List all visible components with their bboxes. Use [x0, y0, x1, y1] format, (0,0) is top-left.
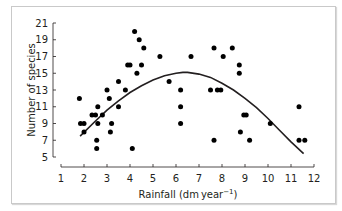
data-point: [82, 129, 87, 134]
data-point: [82, 121, 87, 126]
data-point: [218, 88, 223, 93]
y-tick-label: 15: [35, 68, 48, 79]
data-point: [178, 121, 183, 126]
x-tick-label: 4: [127, 173, 133, 184]
data-point: [123, 88, 128, 93]
x-tick-label: 11: [285, 173, 298, 184]
data-point: [100, 113, 105, 118]
data-point: [139, 62, 144, 67]
data-point: [212, 138, 217, 143]
fit-curve: [80, 72, 304, 153]
data-point: [130, 146, 135, 151]
x-tick-label: 1: [58, 173, 64, 184]
data-point: [77, 96, 82, 101]
data-point: [95, 121, 100, 126]
data-point: [178, 88, 183, 93]
data-point: [247, 138, 252, 143]
y-tick-label: 13: [35, 85, 48, 96]
axes: 579111315171921123456789101112: [35, 18, 320, 185]
data-point: [208, 88, 213, 93]
scatter-chart: 579111315171921123456789101112 Rainfall …: [0, 0, 342, 211]
data-point: [268, 121, 273, 126]
y-tick-label: 9: [42, 118, 48, 129]
data-point: [94, 138, 99, 143]
y-tick-label: 17: [35, 51, 48, 62]
y-tick-label: 11: [35, 101, 48, 112]
x-tick-label: 10: [262, 173, 275, 184]
data-point: [141, 46, 146, 51]
data-point: [116, 104, 121, 109]
data-point: [244, 113, 249, 118]
data-point: [107, 96, 112, 101]
data-point: [128, 62, 133, 67]
x-tick-label: 3: [104, 173, 110, 184]
data-point: [116, 79, 121, 84]
x-axis-title: Rainfall (dm year−1): [139, 188, 238, 200]
y-tick-label: 7: [42, 135, 48, 146]
data-point: [238, 129, 243, 134]
x-tick-label: 6: [173, 173, 179, 184]
data-point: [94, 146, 99, 151]
x-tick-label: 5: [150, 173, 156, 184]
x-tick-label: 12: [308, 173, 321, 184]
data-points: [77, 29, 307, 151]
data-point: [132, 29, 137, 34]
data-point: [109, 121, 114, 126]
data-point: [157, 54, 162, 59]
data-point: [230, 46, 235, 51]
data-point: [297, 104, 302, 109]
data-point: [212, 46, 217, 51]
y-axis-title: Number of species: [26, 43, 37, 137]
data-point: [237, 71, 242, 76]
data-point: [237, 62, 242, 67]
x-tick-label: 9: [242, 173, 248, 184]
data-point: [137, 37, 142, 42]
data-point: [189, 54, 194, 59]
data-point: [178, 104, 183, 109]
fit-curve-path: [80, 72, 304, 153]
data-point: [93, 113, 98, 118]
data-point: [134, 71, 139, 76]
data-point: [105, 88, 110, 93]
data-point: [297, 138, 302, 143]
y-tick-label: 21: [35, 18, 48, 29]
data-point: [167, 79, 172, 84]
x-tick-label: 7: [196, 173, 202, 184]
data-point: [95, 104, 100, 109]
x-tick-label: 8: [219, 173, 225, 184]
y-tick-label: 19: [35, 34, 48, 45]
y-tick-label: 5: [42, 152, 48, 163]
data-point: [108, 129, 113, 134]
data-point: [302, 138, 307, 143]
data-point: [221, 54, 226, 59]
x-tick-label: 2: [81, 173, 87, 184]
